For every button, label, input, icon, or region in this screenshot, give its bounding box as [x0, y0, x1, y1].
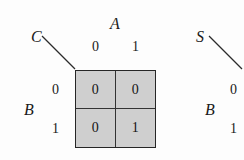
- kmap-right-row-header-1: 1: [230, 122, 237, 136]
- kmap-left-cell-3: 1: [116, 109, 156, 147]
- kmap-left-row-variable: B: [24, 102, 34, 118]
- kmap-right-row-header-0: 0: [230, 83, 237, 97]
- kmap-left-output-label: C: [31, 29, 42, 45]
- kmap-right-output-label: S: [196, 29, 204, 45]
- kmap-left-column-header-0: 0: [92, 40, 99, 54]
- kmap-left-grid: 0 0 0 1: [75, 70, 156, 148]
- karnaugh-map-figure: C A 0 1 B 0 1 0 0 0 1 S B 0 1: [0, 0, 244, 160]
- kmap-left-leader-line: [42, 36, 80, 74]
- kmap-left-cell-2: 0: [76, 109, 116, 147]
- kmap-left-column-header-1: 1: [132, 40, 139, 54]
- kmap-left-row-header-0: 0: [52, 83, 59, 97]
- kmap-left-column-variable: A: [110, 16, 120, 32]
- kmap-left-row-header-1: 1: [52, 122, 59, 136]
- kmap-left-cell-1: 0: [116, 71, 156, 109]
- kmap-right-row-variable: B: [205, 102, 215, 118]
- kmap-right-leader-line: [209, 36, 244, 74]
- kmap-left-cell-0: 0: [76, 71, 116, 109]
